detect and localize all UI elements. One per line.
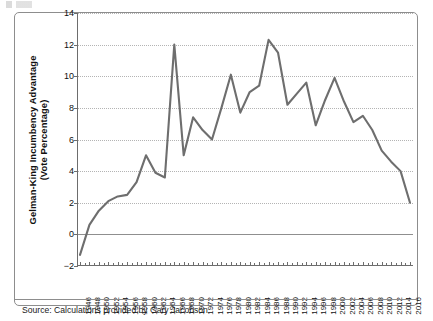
- y-tick-10: 10: [64, 71, 74, 81]
- y-tick-14: 14: [64, 8, 74, 18]
- x-axis-tick-labels: 1946194819501952195419561958196019621964…: [77, 266, 413, 299]
- chart-figure: Gelman-King Incumbency Advantage (Vote P…: [14, 12, 418, 306]
- y-axis-title: Gelman-King Incumbency Advantage (Vote P…: [17, 19, 57, 263]
- series-line: [77, 13, 413, 266]
- source-separator: [15, 299, 417, 300]
- y-tick-12: 12: [64, 40, 74, 50]
- scan-artifact: [6, 1, 32, 8]
- source-note: Source: Calculations provided by Gary Ja…: [22, 301, 413, 319]
- data-series-polyline: [80, 40, 410, 255]
- plot-wrapper: Gelman-King Incumbency Advantage (Vote P…: [15, 13, 417, 266]
- y-tick-mark-6: [74, 140, 78, 141]
- plot-area: [77, 13, 413, 266]
- y-axis-title-text: Gelman-King Incumbency Advantage (Vote P…: [27, 55, 50, 224]
- y-tick-mark-10: [74, 76, 78, 77]
- y-tick-mark-12: [74, 45, 78, 46]
- y-axis-title-line1: Gelman-King Incumbency Advantage: [27, 55, 38, 224]
- source-note-text: Source: Calculations provided by Gary Ja…: [22, 305, 208, 315]
- y-axis-title-line2: (Vote Percentage): [38, 100, 49, 181]
- y-tick--2: −2: [64, 261, 74, 271]
- y-tick-mark-8: [74, 108, 78, 109]
- y-tick-mark-2: [74, 203, 78, 204]
- y-tick-mark-14: [74, 13, 78, 14]
- y-tick-mark-4: [74, 171, 78, 172]
- y-tick-mark-0: [74, 234, 78, 235]
